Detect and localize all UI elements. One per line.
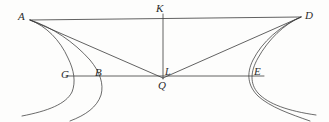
point-label-B: B	[95, 67, 102, 78]
point-label-K: K	[156, 3, 163, 14]
point-label-E: E	[254, 66, 261, 77]
geometry-figure: A K D G B L Q E	[0, 0, 329, 122]
point-label-Q: Q	[158, 80, 166, 91]
point-label-A: A	[18, 11, 25, 22]
point-label-L: L	[165, 66, 171, 77]
figure-canvas	[0, 0, 329, 122]
point-label-G: G	[61, 69, 69, 80]
point-label-D: D	[305, 10, 313, 21]
